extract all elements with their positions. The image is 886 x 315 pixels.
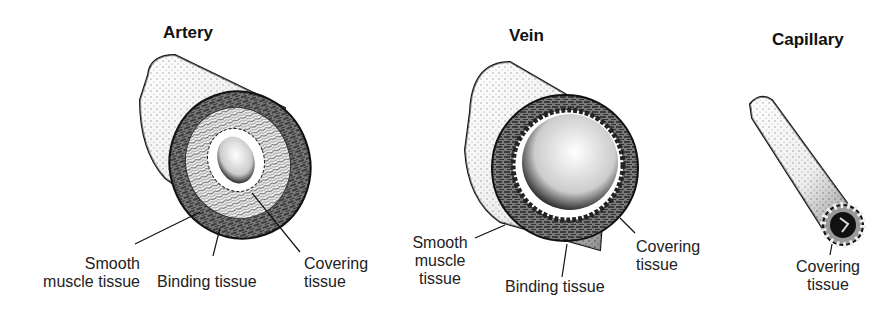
label-line: tissue xyxy=(304,273,368,291)
artery-label-covering-tissue: Covering tissue xyxy=(304,255,368,291)
capillary-title: Capillary xyxy=(772,30,844,50)
artery-label-smooth-muscle: Smooth muscle tissue xyxy=(20,255,140,291)
artery-title: Artery xyxy=(163,23,213,43)
vein-illustration xyxy=(465,62,638,277)
label-line: Covering xyxy=(636,238,700,256)
vein-label-smooth-muscle: Smooth muscle tissue xyxy=(400,234,480,288)
label-line: Smooth xyxy=(20,255,140,273)
capillary-illustration xyxy=(750,97,863,255)
label-line: tissue xyxy=(778,276,878,294)
artery-illustration xyxy=(135,55,331,258)
artery-label-binding-tissue: Binding tissue xyxy=(157,273,257,291)
label-line: tissue xyxy=(636,256,700,274)
label-line: tissue xyxy=(400,270,480,288)
vein-title: Vein xyxy=(509,26,544,46)
label-line: Covering xyxy=(304,255,368,273)
label-line: Smooth xyxy=(400,234,480,252)
label-line: muscle xyxy=(400,252,480,270)
vein-label-binding-tissue: Binding tissue xyxy=(505,278,605,296)
label-line: muscle tissue xyxy=(20,273,140,291)
label-line: Covering xyxy=(778,258,878,276)
vein-label-covering-tissue: Covering tissue xyxy=(636,238,700,274)
capillary-label-covering-tissue: Covering tissue xyxy=(778,258,878,294)
